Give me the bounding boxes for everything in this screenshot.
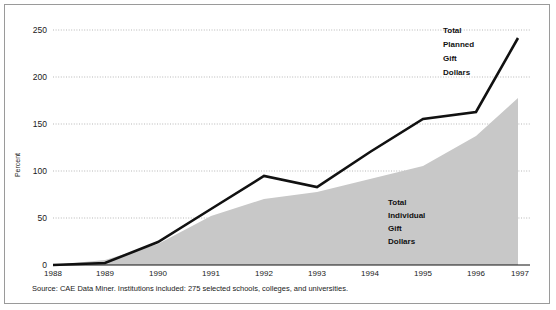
individual-annotation-line: Total — [388, 198, 407, 207]
planned-annotation-line: Dollars — [443, 68, 471, 77]
x-tick-label: 1993 — [308, 269, 326, 278]
x-axis-tick-labels: 1988 1989 1990 1991 1992 1993 1994 1995 … — [44, 269, 529, 278]
x-tick-label: 1990 — [149, 269, 167, 278]
chart-svg: 250 200 150 100 50 0 Percent 1988 1989 1… — [0, 0, 556, 310]
x-tick-label: 1989 — [96, 269, 114, 278]
x-tick-label: 1997 — [511, 269, 529, 278]
x-tick-label: 1992 — [255, 269, 273, 278]
x-tick-label: 1995 — [414, 269, 432, 278]
x-tick-label: 1994 — [361, 269, 379, 278]
y-axis-title: Percent — [14, 153, 21, 177]
individual-annotation-line: Dollars — [388, 237, 416, 246]
x-tick-label: 1991 — [202, 269, 220, 278]
y-tick-label: 150 — [33, 119, 47, 129]
planned-series-annotation: Total Planned Gift Dollars — [443, 26, 474, 77]
planned-annotation-line: Gift — [443, 54, 457, 63]
y-tick-label: 50 — [38, 213, 48, 223]
source-note: Source: CAE Data Miner. Institutions inc… — [32, 284, 348, 293]
y-tick-label: 100 — [33, 166, 47, 176]
planned-annotation-line: Planned — [443, 40, 474, 49]
x-tick-label: 1988 — [44, 269, 62, 278]
individual-annotation-line: Gift — [388, 224, 402, 233]
planned-annotation-line: Total — [443, 26, 462, 35]
y-axis-tick-labels: 250 200 150 100 50 0 — [33, 25, 47, 270]
individual-annotation-line: Individual — [388, 211, 425, 220]
y-tick-label: 250 — [33, 25, 47, 35]
y-tick-label: 200 — [33, 72, 47, 82]
x-tick-label: 1996 — [467, 269, 485, 278]
chart-container: 250 200 150 100 50 0 Percent 1988 1989 1… — [0, 0, 556, 310]
